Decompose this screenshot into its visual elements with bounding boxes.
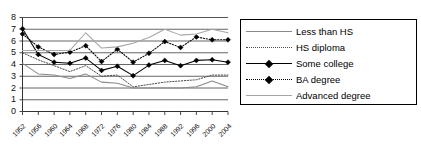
chart-figure: 012345678 195219561960196419681972197619… [0,0,421,152]
series-marker [67,61,72,66]
series-marker [52,60,57,65]
legend-label: Some college [296,59,354,69]
x-tick-marks [23,112,229,116]
legend-marker-diamond-icon [265,75,273,83]
legend-marker-diamond-icon [265,59,273,67]
series-line [23,53,229,87]
series-line [23,29,229,50]
series-marker [178,63,183,68]
y-axis-tick-label: 3 [4,72,16,81]
series-marker [226,37,231,42]
legend-label: BA degree [296,75,340,85]
legend-swatch [246,74,292,86]
legend-item: Some college [241,56,416,72]
legend-swatch [246,58,292,70]
legend-item: BA degree [241,72,416,88]
legend-swatch [246,26,292,38]
plot-area: 012345678 195219561960196419681972197619… [0,0,234,152]
y-axis-tick-label: 2 [4,84,16,93]
series-marker [210,57,215,62]
series-marker [162,58,167,63]
legend-label: HS diploma [296,43,345,53]
legend-item: HS diploma [241,40,416,56]
legend-swatch [246,90,292,102]
series-marker [210,37,215,42]
y-axis-tick-label: 6 [4,37,16,46]
series-marker [226,60,231,65]
series-marker [194,34,199,39]
legend-item: Less than HS [241,24,416,40]
y-axis-tick-label: 8 [4,13,16,22]
legend-label: Advanced degree [296,91,370,101]
legend-swatch [246,42,292,54]
series-line [23,63,229,88]
y-axis-tick-label: 7 [4,25,16,34]
chart-legend: Less than HSHS diplomaSome collegeBA deg… [240,19,417,105]
series-marker [194,58,199,63]
series-marker [178,45,183,50]
gridlines [23,18,229,112]
y-axis-tick-label: 1 [4,95,16,104]
legend-label: Less than HS [296,27,353,37]
y-axis-tick-label: 5 [4,48,16,57]
data-series-layer [20,26,231,88]
series-marker [20,26,25,31]
legend-item: Advanced degree [241,88,416,104]
y-axis-tick-label: 4 [4,60,16,69]
y-axis-tick-label: 0 [4,107,16,116]
